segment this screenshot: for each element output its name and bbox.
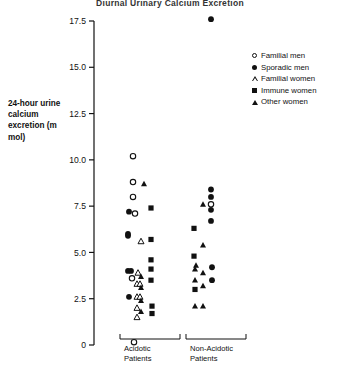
open-triangle-icon bbox=[248, 76, 261, 81]
data-point-filled-square bbox=[148, 278, 153, 283]
filled-triangle-icon bbox=[248, 100, 261, 105]
legend-item-label: Immune women bbox=[261, 85, 316, 97]
data-point-open-circle bbox=[130, 179, 135, 184]
y-axis-tick-label: 5.0 bbox=[74, 248, 86, 258]
group-label-line2: Patients bbox=[124, 354, 152, 363]
scatter-chart: Diurnal Urinary Calcium Excretion 24-hou… bbox=[0, 0, 340, 375]
legend-item[interactable]: Familial women bbox=[248, 73, 316, 85]
data-point-open-circle bbox=[129, 276, 134, 281]
group-label-line1: Non-Acidotic bbox=[190, 344, 233, 353]
y-axis-tick-label: 7.5 bbox=[74, 201, 86, 211]
legend-item-label: Other women bbox=[261, 96, 308, 108]
data-point-filled-circle bbox=[208, 207, 214, 213]
data-point-filled-triangle bbox=[200, 242, 206, 248]
data-point-filled-square bbox=[148, 266, 153, 271]
legend-item-label: Sporadic men bbox=[261, 62, 309, 74]
legend-item[interactable]: Familial men bbox=[248, 50, 316, 62]
data-point-filled-circle bbox=[126, 294, 132, 300]
filled-circle-icon bbox=[248, 65, 261, 70]
data-point-filled-square bbox=[191, 226, 196, 231]
data-point-open-triangle bbox=[134, 314, 140, 320]
data-point-filled-square bbox=[149, 311, 154, 316]
y-axis-tick-label: 17.5 bbox=[69, 16, 86, 26]
y-axis-tick-label: 2.5 bbox=[74, 294, 86, 304]
data-point-filled-square bbox=[148, 205, 153, 210]
data-point-filled-triangle bbox=[200, 303, 206, 309]
data-point-filled-circle bbox=[208, 194, 214, 200]
group-label-line1: Acidotic bbox=[124, 344, 151, 353]
data-point-filled-triangle bbox=[200, 201, 206, 207]
data-point-open-circle bbox=[208, 202, 213, 207]
legend-item[interactable]: Sporadic men bbox=[248, 62, 316, 74]
filled-square-icon bbox=[248, 88, 261, 93]
data-point-filled-circle bbox=[208, 16, 214, 22]
data-point-filled-circle bbox=[208, 218, 214, 224]
data-point-filled-circle bbox=[208, 187, 214, 193]
data-point-filled-circle bbox=[126, 209, 132, 215]
data-point-filled-square bbox=[149, 304, 154, 309]
data-point-open-triangle bbox=[135, 270, 141, 276]
data-point-filled-square bbox=[148, 237, 153, 242]
data-point-open-triangle bbox=[138, 238, 144, 244]
legend-item-label: Familial men bbox=[261, 50, 305, 62]
data-point-open-circle bbox=[130, 194, 135, 199]
legend-item[interactable]: Immune women bbox=[248, 85, 316, 97]
legend-item[interactable]: Other women bbox=[248, 96, 316, 108]
data-point-filled-circle bbox=[209, 264, 215, 270]
chart-legend: Familial menSporadic menFamilial womenIm… bbox=[248, 50, 316, 108]
y-axis-tick-label: 0 bbox=[81, 340, 86, 350]
data-point-filled-circle bbox=[125, 233, 131, 239]
data-point-filled-circle bbox=[128, 268, 134, 274]
data-point-filled-triangle bbox=[192, 277, 198, 283]
y-axis-tick-label: 12.5 bbox=[69, 109, 86, 119]
data-point-filled-square bbox=[192, 287, 197, 292]
y-axis-tick-label: 10.0 bbox=[69, 155, 86, 165]
data-point-open-circle bbox=[131, 340, 136, 345]
data-point-filled-triangle bbox=[193, 262, 199, 268]
open-circle-icon bbox=[248, 53, 261, 58]
data-point-filled-square bbox=[148, 257, 153, 262]
data-point-filled-triangle bbox=[200, 270, 206, 276]
data-point-filled-triangle bbox=[141, 181, 147, 187]
data-point-filled-square bbox=[191, 254, 196, 259]
data-point-open-triangle bbox=[134, 305, 140, 311]
data-point-filled-triangle bbox=[192, 303, 198, 309]
y-axis-tick-label: 15.0 bbox=[69, 62, 86, 72]
data-point-open-circle bbox=[130, 153, 135, 158]
group-label-line2: Patients bbox=[190, 354, 218, 363]
data-point-open-circle bbox=[132, 211, 137, 216]
data-point-filled-triangle bbox=[200, 283, 206, 289]
legend-item-label: Familial women bbox=[261, 73, 315, 85]
data-point-filled-circle bbox=[209, 277, 215, 283]
